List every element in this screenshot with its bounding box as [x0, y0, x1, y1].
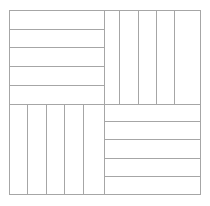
pinwheel-diagram-canvas — [0, 0, 210, 206]
pinwheel-diagram-svg — [0, 0, 210, 206]
diagram-layers — [10, 11, 201, 195]
